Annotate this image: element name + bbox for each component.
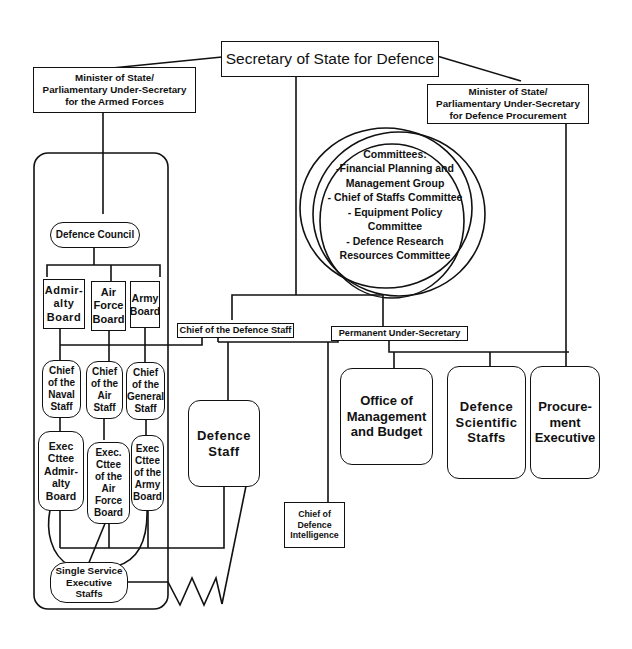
defence-council-node: Defence Council	[50, 222, 140, 248]
minister-armed-forces-box: Minister of State/ Parliamentary Under-S…	[33, 67, 196, 113]
admiralty-board-node: Admir- alty Board	[43, 279, 85, 329]
chief-defence-intelligence-box: Chief of Defence Intelligence	[284, 502, 345, 548]
exec-admiralty-node: Exec Cttee Admir- alty Board	[38, 431, 84, 511]
defence-scientific-staffs-node: Defence Scientific Staffs	[447, 366, 526, 479]
permanent-under-secretary-box: Permanent Under-Secretary	[331, 326, 468, 341]
army-board-node: Army Board	[130, 281, 160, 328]
single-service-executive-staffs-node: Single Service Executive Staffs	[50, 562, 128, 603]
chief-general-staff-node: Chief of the General Staff	[126, 362, 165, 420]
minister-procurement-box: Minister of State/ Parliamentary Under-S…	[427, 84, 589, 124]
chief-naval-staff-node: Chief of the Naval Staff	[42, 360, 81, 418]
air-force-board-node: Air Force Board	[91, 281, 126, 331]
procurement-executive-node: Procure- ment Executive	[530, 366, 600, 479]
office-management-budget-node: Office of Management and Budget	[340, 368, 433, 465]
committees-list: Committees: -Financial Planning and Mana…	[325, 147, 465, 263]
defence-staff-node: Defence Staff	[188, 400, 260, 487]
exec-army-node: Exec Cttee of the Army Board	[131, 435, 164, 511]
chief-of-defence-staff-box: Chief of the Defence Staff	[177, 323, 294, 338]
secretary-of-state-box: Secretary of State for Defence	[221, 41, 439, 77]
chief-air-staff-node: Chief of the Air Staff	[86, 361, 123, 419]
exec-air-force-node: Exec. Cttee of the Air Force Board	[87, 442, 130, 524]
